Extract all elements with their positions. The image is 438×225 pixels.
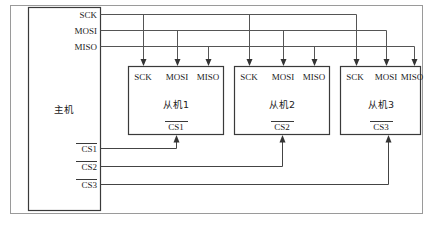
arrow-miso-slave2 [312, 59, 318, 66]
arrow-sck-slave1 [141, 59, 147, 66]
bus-miso [101, 47, 418, 67]
slave-1-port-miso: MISO [197, 72, 220, 82]
master-port-sck: SCK [79, 10, 97, 20]
arrow-miso-slave1 [206, 59, 212, 66]
master-label: 主机 [54, 104, 74, 115]
arrow-miso-slave3 [412, 59, 418, 66]
bus-sck [101, 15, 360, 67]
slave-2-port-sck: SCK [240, 72, 258, 82]
slave-2-port-cs: CS2 [274, 122, 290, 132]
master-port-mosi: MOSI [74, 26, 97, 36]
slave-2-label: 从机2 [269, 99, 295, 110]
slave-1-port-cs: CS1 [168, 122, 184, 132]
slave-3-label: 从机3 [368, 99, 394, 110]
arrow-mosi-slave3 [384, 59, 390, 66]
slave-1-label: 从机1 [163, 99, 189, 110]
slave-3-port-cs: CS3 [373, 122, 389, 132]
master-port-cs2: CS2 [81, 162, 97, 172]
wire-cs1 [101, 135, 180, 149]
arrow-cs1-slave1 [174, 135, 180, 143]
slave-3-port-sck: SCK [346, 72, 364, 82]
slave-3-port-mosi: MOSI [375, 72, 398, 82]
slave-2-port-mosi: MOSI [272, 72, 295, 82]
arrow-sck-slave2 [247, 59, 253, 66]
slave-3-port-miso: MISO [401, 72, 424, 82]
arrow-mosi-slave2 [281, 59, 287, 66]
diagram-canvas: 主机 SCK MOSI MISO CS1 CS2 CS3 SCK MOSI MI… [0, 0, 438, 225]
arrow-cs2-slave2 [280, 135, 286, 143]
master-port-cs1: CS1 [81, 144, 97, 154]
wire-cs2 [101, 135, 286, 167]
spi-topology-diagram: 主机 SCK MOSI MISO CS1 CS2 CS3 SCK MOSI MI… [0, 0, 438, 225]
slave-2-port-miso: MISO [303, 72, 326, 82]
arrow-sck-slave3 [354, 59, 360, 66]
master-port-cs3: CS3 [81, 180, 97, 190]
slave-1-port-mosi: MOSI [166, 72, 189, 82]
arrow-mosi-slave1 [175, 59, 181, 66]
wire-cs3 [101, 135, 392, 185]
master-port-miso: MISO [74, 42, 97, 52]
arrow-cs3-slave3 [386, 135, 392, 143]
slave-1-port-sck: SCK [134, 72, 152, 82]
